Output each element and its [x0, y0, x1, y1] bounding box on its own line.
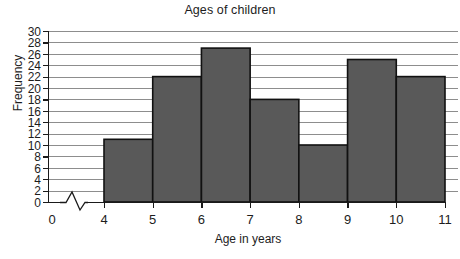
bar — [348, 60, 397, 203]
bar — [153, 77, 202, 202]
plot-area: 024681012141618202224262830 04567891011 — [0, 0, 460, 259]
axis-break-symbol — [60, 192, 88, 210]
x-tick-label: 11 — [438, 212, 452, 227]
bar — [201, 48, 250, 202]
y-tick-labels: 024681012141618202224262830 — [28, 25, 42, 210]
bar — [299, 145, 348, 202]
x-tick-label: 10 — [389, 212, 403, 227]
axis-break-zigzag — [60, 192, 88, 210]
x-tick-label: 8 — [295, 212, 302, 227]
bars — [104, 48, 445, 202]
histogram-chart: Ages of children Frequency Age in years … — [0, 0, 460, 259]
x-tick-label: 5 — [149, 212, 156, 227]
x-tick-label: 9 — [344, 212, 351, 227]
bar — [104, 139, 153, 202]
x-tick-label: 7 — [247, 212, 254, 227]
bar — [250, 99, 299, 202]
bar — [396, 77, 445, 202]
x-tick-label: 4 — [100, 212, 107, 227]
x-tick-label: 6 — [198, 212, 205, 227]
y-tick-label: 30 — [28, 25, 42, 39]
x-tick-labels: 04567891011 — [48, 212, 451, 227]
x-tick-label: 0 — [48, 212, 55, 227]
